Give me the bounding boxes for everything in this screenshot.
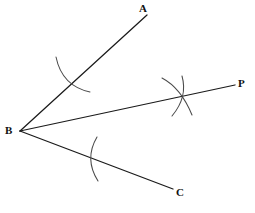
ray-bc: [20, 131, 173, 189]
label-point-a: A: [139, 3, 147, 14]
label-point-b: B: [5, 125, 12, 136]
geometry-figure: A B C P: [0, 0, 255, 213]
label-point-p: P: [238, 78, 245, 89]
ray-bp: [20, 85, 235, 131]
arc-on-ray-ba-icon: [56, 57, 90, 92]
ray-ba: [20, 15, 147, 131]
label-point-c: C: [176, 187, 184, 198]
geometry-canvas: [0, 0, 255, 213]
